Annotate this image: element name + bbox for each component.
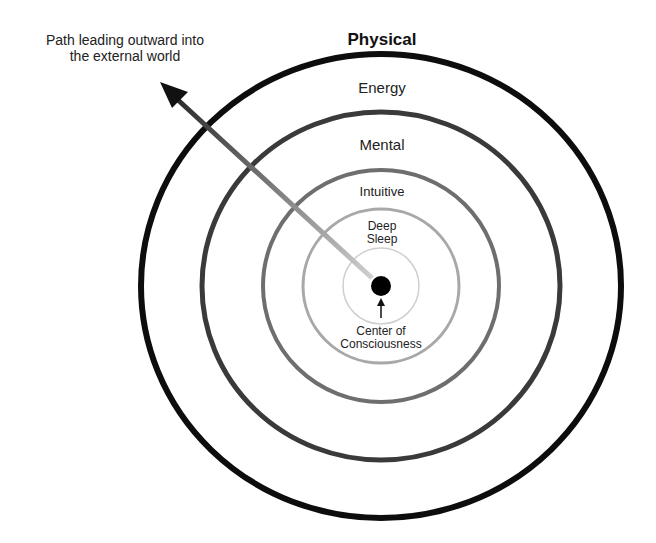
- physical-label: Physical: [348, 30, 417, 50]
- energy-label: Energy: [358, 79, 406, 96]
- intuitive-label: Intuitive: [360, 184, 405, 199]
- center-dot: [371, 276, 391, 296]
- deep-sleep-label: Deep Sleep: [367, 220, 398, 246]
- path-label-line-2: the external world: [46, 48, 204, 64]
- rings-svg: [0, 0, 656, 543]
- deep-sleep-line-2: Sleep: [367, 233, 398, 246]
- center-label: Center of Consciousness: [340, 325, 421, 351]
- path-label-line-1: Path leading outward into: [46, 32, 204, 48]
- center-label-line-2: Consciousness: [340, 338, 421, 351]
- path-label: Path leading outward into the external w…: [46, 32, 204, 64]
- mental-label: Mental: [359, 136, 404, 153]
- consciousness-layers-diagram: Physical Energy Mental Intuitive Deep Sl…: [0, 0, 656, 543]
- center-arrow-head-icon: [377, 298, 385, 306]
